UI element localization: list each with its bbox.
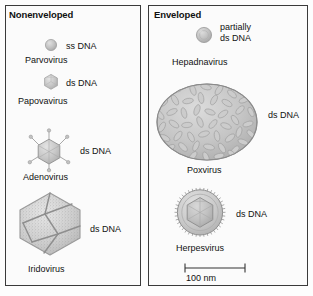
- virus-icon-herpesvirus: [172, 188, 228, 242]
- genome-label-hepadnavirus-line1: partially: [220, 22, 251, 32]
- genome-label-iridovirus: ds DNA: [90, 224, 121, 234]
- virus-name-adenovirus: Adenovirus: [23, 172, 68, 182]
- genome-label-hepadnavirus-line2: ds DNA: [220, 33, 251, 43]
- panel-title-nonenveloped: Nonenveloped: [9, 9, 73, 20]
- virus-name-papovavirus: Papovavirus: [18, 96, 68, 106]
- virus-name-poxvirus: Poxvirus: [187, 165, 222, 175]
- virus-icon-hepadnavirus: [194, 25, 214, 45]
- virus-icon-papovavirus: [42, 73, 60, 91]
- virus-icon-poxvirus: [155, 82, 259, 164]
- scale-bar-label: 100 nm: [186, 273, 216, 283]
- virus-name-herpesvirus: Herpesvirus: [176, 243, 224, 253]
- genome-label-papovavirus: ds DNA: [66, 78, 97, 88]
- scale-bar: [184, 263, 246, 273]
- panel-title-enveloped: Enveloped: [154, 9, 201, 20]
- genome-label-poxvirus: ds DNA: [268, 110, 299, 120]
- virus-name-parvovirus: Parvovirus: [25, 55, 68, 65]
- virus-name-hepadnavirus: Hepadnavirus: [172, 57, 228, 67]
- virus-icon-iridovirus: [14, 190, 86, 258]
- virus-name-iridovirus: Iridovirus: [28, 264, 65, 274]
- virus-icon-parvovirus: [44, 38, 58, 52]
- genome-label-adenovirus: ds DNA: [80, 146, 111, 156]
- virus-icon-adenovirus: [26, 128, 72, 172]
- genome-label-parvovirus: ss DNA: [66, 41, 97, 51]
- virus-morphology-figure: Nonenveloped ss DNA Parvovirus: [0, 0, 313, 296]
- genome-label-herpesvirus: ds DNA: [236, 209, 267, 219]
